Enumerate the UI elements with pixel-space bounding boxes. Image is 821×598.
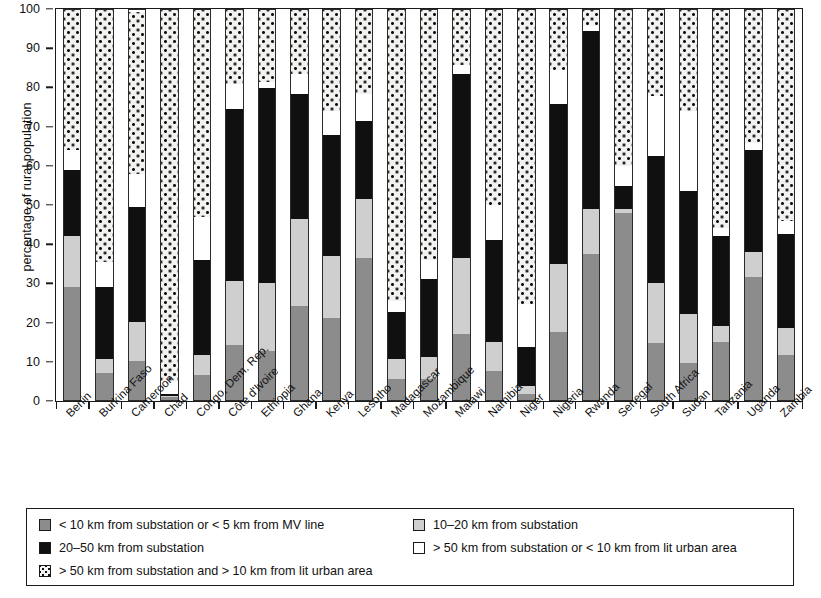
bar-segment-s2 bbox=[745, 252, 762, 277]
bar-segment-s2 bbox=[96, 359, 113, 373]
bar-niger[interactable] bbox=[517, 9, 536, 401]
y-tick-mark bbox=[46, 47, 53, 48]
stacked-bar bbox=[225, 9, 244, 401]
legend-item[interactable]: > 50 km from substation and > 10 km from… bbox=[39, 564, 373, 578]
bar-segment-s4 bbox=[518, 304, 535, 347]
y-tick-label: 10 bbox=[6, 355, 40, 369]
bar-rwanda[interactable] bbox=[582, 9, 601, 401]
bar-segment-s4 bbox=[64, 150, 81, 170]
stacked-bar bbox=[95, 9, 114, 401]
bar-segment-s1 bbox=[615, 213, 632, 400]
bar-segment-s4 bbox=[550, 70, 567, 103]
bar-kenya[interactable] bbox=[322, 9, 341, 401]
bar-senegal[interactable] bbox=[614, 9, 633, 401]
bar-segment-s2 bbox=[778, 328, 795, 355]
bar-malawi[interactable] bbox=[452, 9, 471, 401]
bar-uganda[interactable] bbox=[744, 9, 763, 401]
bar-segment-s5 bbox=[486, 10, 503, 205]
bar-segment-s3 bbox=[550, 104, 567, 264]
bar-c-te-d-ivoire[interactable] bbox=[225, 9, 244, 401]
y-tick-mark bbox=[46, 8, 53, 9]
bar-nigeria[interactable] bbox=[549, 9, 568, 401]
bar-segment-s4 bbox=[291, 74, 308, 94]
bar-segment-s2 bbox=[356, 199, 373, 258]
y-tick-label: 60 bbox=[6, 159, 40, 173]
stacked-bar bbox=[193, 9, 212, 401]
bar-segment-s3 bbox=[129, 207, 146, 322]
stacked-bar bbox=[290, 9, 309, 401]
bar-segment-s4 bbox=[680, 111, 697, 191]
bar-namibia[interactable] bbox=[485, 9, 504, 401]
bar-segment-s5 bbox=[129, 12, 146, 174]
stacked-bar bbox=[452, 9, 471, 401]
bar-segment-s2 bbox=[550, 264, 567, 332]
legend-label: 10–20 km from substation bbox=[433, 518, 578, 532]
bar-segment-s2 bbox=[129, 322, 146, 361]
legend-swatch-s1-icon bbox=[39, 519, 51, 531]
bar-segment-s1 bbox=[356, 258, 373, 400]
legend-label: > 50 km from substation or < 10 km from … bbox=[433, 541, 737, 555]
bar-cameroon[interactable] bbox=[128, 9, 147, 401]
bar-ghana[interactable] bbox=[290, 9, 309, 401]
stacked-bar bbox=[679, 9, 698, 401]
bar-segment-s3 bbox=[96, 287, 113, 359]
legend-item[interactable]: < 10 km from substation or < 5 km from M… bbox=[39, 518, 324, 532]
bar-segment-s5 bbox=[291, 10, 308, 74]
bar-segment-s2 bbox=[615, 209, 632, 213]
bar-lesotho[interactable] bbox=[355, 9, 374, 401]
bar-mozambique[interactable] bbox=[420, 9, 439, 401]
bar-segment-s5 bbox=[745, 10, 762, 143]
bar-segment-s2 bbox=[486, 342, 503, 371]
legend-swatch-s3-icon bbox=[39, 542, 51, 554]
bar-segment-s5 bbox=[194, 10, 211, 217]
y-tick-mark bbox=[46, 87, 53, 88]
bar-benin[interactable] bbox=[63, 9, 82, 401]
bar-segment-s5 bbox=[550, 10, 567, 70]
stacked-bar bbox=[777, 9, 796, 401]
bar-zambia[interactable] bbox=[777, 9, 796, 401]
y-tick-label: 20 bbox=[6, 316, 40, 330]
bar-segment-s3 bbox=[615, 186, 632, 209]
bar-segment-s3 bbox=[226, 109, 243, 281]
legend-label: < 10 km from substation or < 5 km from M… bbox=[59, 518, 324, 532]
bar-sudan[interactable] bbox=[679, 9, 698, 401]
bar-south-africa[interactable] bbox=[647, 9, 666, 401]
bar-segment-s3 bbox=[680, 191, 697, 314]
stacked-bar bbox=[322, 9, 341, 401]
bar-segment-s5 bbox=[259, 10, 276, 82]
stacked-bar bbox=[582, 9, 601, 401]
bar-segment-s5 bbox=[226, 10, 243, 84]
bar-segment-s4 bbox=[259, 82, 276, 88]
bar-burkina-faso[interactable] bbox=[95, 9, 114, 401]
y-tick-mark bbox=[46, 165, 53, 166]
y-tick-mark bbox=[46, 283, 53, 284]
bar-segment-s2 bbox=[194, 355, 211, 375]
bar-chad[interactable] bbox=[160, 9, 179, 401]
bar-segment-s5 bbox=[388, 10, 405, 301]
bar-segment-s3 bbox=[291, 94, 308, 219]
legend-item[interactable]: 20–50 km from substation bbox=[39, 541, 204, 555]
stacked-bar bbox=[63, 9, 82, 401]
bar-segment-s2 bbox=[388, 359, 405, 379]
stacked-bar bbox=[355, 9, 374, 401]
bar-segment-s4 bbox=[323, 111, 340, 134]
bar-segment-s3 bbox=[778, 234, 795, 328]
bar-segment-s3 bbox=[388, 312, 405, 359]
y-tick-label: 40 bbox=[6, 237, 40, 251]
legend-item[interactable]: 10–20 km from substation bbox=[413, 518, 578, 532]
chart-legend: < 10 km from substation or < 5 km from M… bbox=[26, 508, 794, 586]
bar-segment-s3 bbox=[583, 31, 600, 208]
bar-congo-dem-rep[interactable] bbox=[193, 9, 212, 401]
bar-segment-s2 bbox=[713, 326, 730, 342]
legend-item[interactable]: > 50 km from substation or < 10 km from … bbox=[413, 541, 737, 555]
legend-label: 20–50 km from substation bbox=[59, 541, 204, 555]
bar-tanzania[interactable] bbox=[712, 9, 731, 401]
stacked-bar bbox=[420, 9, 439, 401]
y-tick-mark bbox=[46, 243, 53, 244]
bar-madagascar[interactable] bbox=[387, 9, 406, 401]
bar-segment-s2 bbox=[64, 236, 81, 287]
bar-segment-s2 bbox=[226, 281, 243, 345]
bar-segment-s3 bbox=[259, 88, 276, 283]
bar-segment-s5 bbox=[421, 10, 438, 260]
bar-segment-s1 bbox=[550, 332, 567, 400]
